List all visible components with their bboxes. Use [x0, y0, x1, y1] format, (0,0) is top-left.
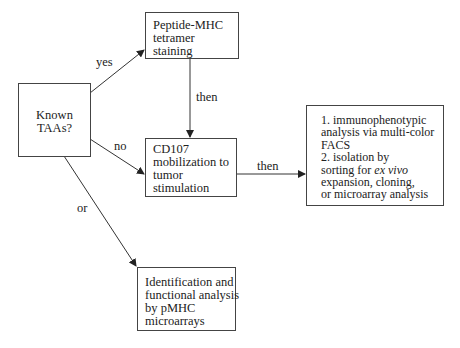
node-pmhc-microarrays: Identification and functional analysis b… — [137, 267, 236, 331]
node-text: analysis via multi-color — [321, 126, 443, 138]
node-known-taas: Known TAAs? — [18, 83, 91, 157]
node-analysis: 1. immunophenotypic analysis via multi-c… — [306, 105, 444, 206]
node-text: microarrays — [145, 315, 235, 328]
edge-label-or: or — [77, 202, 87, 215]
node-text: TAAs? — [19, 122, 90, 135]
edge-label-no: no — [114, 140, 127, 153]
edge-or — [64, 156, 136, 266]
edge-label-then-down: then — [196, 91, 218, 104]
node-text: staining — [153, 45, 238, 58]
node-cd107: CD107 mobilization to tumor stimulation — [145, 138, 237, 197]
node-text: or microarray analysis — [321, 188, 443, 200]
node-tetramer: Peptide-MHC tetramer staining — [145, 12, 239, 59]
edge-label-then-right: then — [257, 160, 279, 173]
edge-label-yes: yes — [96, 56, 113, 69]
node-text: stimulation — [153, 182, 236, 195]
